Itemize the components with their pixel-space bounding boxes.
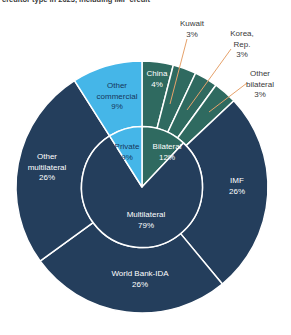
- segment-label-other-bilateral: Otherbilateral3%: [246, 69, 274, 99]
- chart-page: creditor type in 2023, including IMF cre…: [0, 0, 291, 335]
- segment-label-kuwait: Kuwait3%: [180, 19, 205, 39]
- segment-label-korea: Korea,Rep.3%: [230, 29, 254, 59]
- segment-label-imf: IMF26%: [229, 176, 245, 196]
- nested-donut-chart: China4%Kuwait3%Korea,Rep.3%Otherbilatera…: [0, 0, 291, 335]
